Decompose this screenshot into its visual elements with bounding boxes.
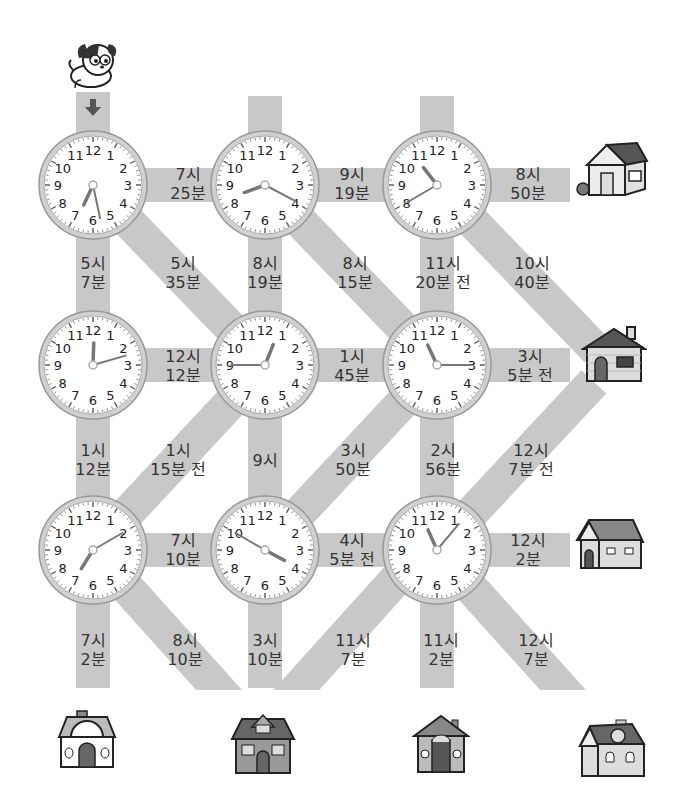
path-label-d2-c3: 12시7분 전 — [508, 441, 553, 479]
svg-text:11: 11 — [239, 513, 256, 528]
clock-r2c2[interactable]: 121234567891011 — [209, 309, 321, 421]
svg-text:9: 9 — [54, 543, 62, 558]
svg-text:6: 6 — [433, 213, 441, 228]
svg-text:9: 9 — [398, 543, 406, 558]
svg-text:9: 9 — [226, 543, 234, 558]
clock-r3c2[interactable]: 121234567891011 — [209, 494, 321, 606]
house-bottom-4[interactable] — [578, 718, 646, 782]
svg-text:11: 11 — [239, 148, 256, 163]
path-label-r2-h3: 3시5분 전 — [507, 347, 552, 385]
svg-text:11: 11 — [411, 513, 428, 528]
svg-text:8: 8 — [231, 196, 239, 211]
svg-text:3: 3 — [124, 358, 132, 373]
svg-text:5: 5 — [106, 573, 114, 588]
clock-r3c1[interactable]: 121234567891011 — [37, 494, 149, 606]
svg-text:6: 6 — [261, 393, 269, 408]
svg-text:12: 12 — [257, 323, 274, 338]
svg-text:10: 10 — [226, 161, 243, 176]
path-label-d3-c1: 8시10분 — [167, 631, 202, 669]
svg-text:4: 4 — [291, 376, 299, 391]
svg-text:2: 2 — [291, 526, 299, 541]
path-label-r3-h2: 4시5분 전 — [329, 531, 374, 569]
path-label-v2-c1: 1시12분 — [75, 441, 110, 479]
svg-text:1: 1 — [106, 148, 114, 163]
svg-text:2: 2 — [119, 161, 127, 176]
path-label-r2-h2: 1시45분 — [334, 347, 369, 385]
svg-text:8: 8 — [59, 376, 67, 391]
svg-text:4: 4 — [119, 561, 127, 576]
svg-text:6: 6 — [433, 578, 441, 593]
svg-text:12: 12 — [429, 323, 446, 338]
path-label-d3-c2: 11시7분 — [335, 631, 370, 669]
path-label-v2-c3: 2시56분 — [425, 441, 460, 479]
clock-r1c2[interactable]: 121234567891011 — [209, 129, 321, 241]
svg-text:1: 1 — [278, 148, 286, 163]
house-right-2[interactable] — [581, 323, 647, 387]
house-bottom-3[interactable] — [412, 712, 470, 778]
svg-text:6: 6 — [261, 578, 269, 593]
svg-text:2: 2 — [463, 341, 471, 356]
clock-r3c3[interactable]: 121234567891011 — [381, 494, 493, 606]
right-area — [570, 140, 684, 660]
svg-text:7: 7 — [71, 208, 79, 223]
svg-text:7: 7 — [415, 388, 423, 403]
path-label-d2-c2: 3시50분 — [335, 441, 370, 479]
svg-text:4: 4 — [119, 196, 127, 211]
svg-text:8: 8 — [403, 561, 411, 576]
svg-text:5: 5 — [450, 208, 458, 223]
clock-r1c1[interactable]: 121234567891011 — [37, 129, 149, 241]
svg-text:7: 7 — [415, 573, 423, 588]
svg-text:4: 4 — [463, 561, 471, 576]
house-right-1[interactable] — [575, 139, 649, 201]
svg-text:6: 6 — [433, 393, 441, 408]
clock-r1c3[interactable]: 121234567891011 — [381, 129, 493, 241]
svg-text:11: 11 — [67, 513, 84, 528]
path-label-d1-c2: 8시15분 — [337, 254, 372, 292]
svg-text:8: 8 — [403, 376, 411, 391]
path-label-r1-h1: 7시25분 — [170, 165, 205, 203]
svg-text:12: 12 — [85, 508, 102, 523]
clock-r2c1[interactable]: 121234567891011 — [37, 309, 149, 421]
dog-start-character — [65, 40, 121, 96]
svg-text:1: 1 — [106, 513, 114, 528]
svg-text:5: 5 — [106, 388, 114, 403]
svg-text:5: 5 — [278, 208, 286, 223]
svg-text:8: 8 — [59, 561, 67, 576]
svg-text:6: 6 — [89, 213, 97, 228]
path-label-r1-h3: 8시50분 — [510, 165, 545, 203]
svg-text:5: 5 — [278, 388, 286, 403]
path-label-r3-h3: 12시2분 — [510, 531, 545, 569]
svg-text:3: 3 — [124, 178, 132, 193]
svg-text:12: 12 — [429, 508, 446, 523]
svg-text:10: 10 — [398, 161, 415, 176]
path-label-v1-c2: 8시19분 — [247, 254, 282, 292]
svg-text:9: 9 — [226, 178, 234, 193]
svg-text:8: 8 — [231, 376, 239, 391]
clock-r2c3[interactable]: 121234567891011 — [381, 309, 493, 421]
path-label-r3-h1: 7시10분 — [165, 531, 200, 569]
svg-text:12: 12 — [257, 508, 274, 523]
svg-text:3: 3 — [296, 358, 304, 373]
svg-text:4: 4 — [463, 196, 471, 211]
svg-text:9: 9 — [54, 358, 62, 373]
svg-text:2: 2 — [463, 526, 471, 541]
svg-text:6: 6 — [261, 213, 269, 228]
svg-text:7: 7 — [243, 388, 251, 403]
house-bottom-2[interactable] — [230, 711, 296, 779]
path-label-v3-c1: 7시2분 — [80, 631, 105, 669]
svg-text:1: 1 — [278, 513, 286, 528]
house-bottom-1[interactable] — [57, 709, 117, 775]
svg-text:10: 10 — [398, 526, 415, 541]
svg-text:7: 7 — [243, 208, 251, 223]
svg-text:1: 1 — [450, 148, 458, 163]
svg-text:4: 4 — [119, 376, 127, 391]
svg-text:7: 7 — [71, 573, 79, 588]
svg-text:12: 12 — [257, 143, 274, 158]
svg-text:8: 8 — [403, 196, 411, 211]
house-right-3[interactable] — [575, 516, 645, 574]
svg-text:2: 2 — [291, 341, 299, 356]
path-label-d1-c1: 5시35분 — [165, 254, 200, 292]
svg-text:7: 7 — [243, 573, 251, 588]
path-label-v3-c2: 3시10분 — [247, 631, 282, 669]
svg-text:9: 9 — [54, 178, 62, 193]
